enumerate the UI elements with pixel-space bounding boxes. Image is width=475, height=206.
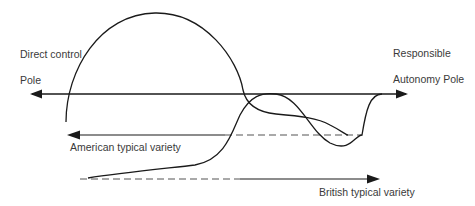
main-axis-arrow bbox=[30, 90, 408, 99]
diagram-graphics bbox=[0, 0, 475, 206]
british-variety-label: British typical variety bbox=[319, 187, 415, 198]
american-variety-label: American typical variety bbox=[70, 142, 181, 153]
right-pole-label-line1: Responsible bbox=[393, 48, 451, 59]
diagram-canvas: Direct control Pole Responsible Autonomy… bbox=[0, 0, 475, 206]
left-pole-label-line1: Direct control bbox=[20, 49, 82, 60]
british-curve bbox=[88, 94, 382, 178]
british-variety-arrow bbox=[80, 175, 380, 184]
left-pole-label-line2: Pole bbox=[20, 75, 41, 86]
right-pole-label-line2: Autonomy Pole bbox=[393, 74, 464, 85]
